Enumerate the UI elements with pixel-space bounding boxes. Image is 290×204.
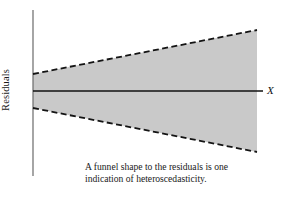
y-axis-label: Residuals [0,62,12,118]
figure-caption: A funnel shape to the residuals is one i… [85,161,285,184]
residual-funnel-figure: Residuals X A funnel shape to the residu… [0,0,290,204]
x-axis-label: X [267,84,274,97]
